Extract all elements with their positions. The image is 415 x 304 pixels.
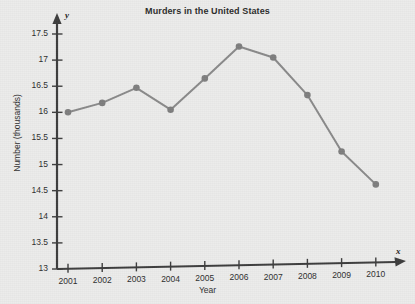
x-axis-symbol: x <box>396 246 401 256</box>
data-point-2006 <box>236 43 243 50</box>
series-markers <box>65 43 379 188</box>
x-tick-label: 2008 <box>290 271 324 281</box>
y-axis-arrowhead <box>52 13 61 24</box>
x-tick-label: 2006 <box>222 272 256 282</box>
data-point-2005 <box>202 75 209 82</box>
x-axis-line <box>57 262 396 269</box>
data-point-2009 <box>338 148 345 155</box>
series-line <box>68 47 376 185</box>
data-point-2003 <box>133 85 140 92</box>
y-tick-label: 14 <box>20 211 48 221</box>
y-tick-label: 17.5 <box>20 28 48 38</box>
y-tick-label: 14.5 <box>20 185 48 195</box>
y-axis-symbol: y <box>65 10 69 20</box>
data-point-2002 <box>99 100 106 107</box>
x-tick-label: 2010 <box>359 269 393 279</box>
x-tick-label: 2003 <box>119 274 153 284</box>
y-tick-label: 17 <box>20 54 48 64</box>
y-tick-label: 16.5 <box>20 80 48 90</box>
x-tick-label: 2007 <box>256 272 290 282</box>
axes <box>52 13 406 269</box>
x-tick-label: 2005 <box>188 273 222 283</box>
x-axis-arrowhead <box>395 257 407 266</box>
y-tick-label: 16 <box>20 106 48 116</box>
x-tick-label: 2004 <box>154 274 188 284</box>
x-axis-label: Year <box>0 285 415 295</box>
x-tick-label: 2009 <box>325 270 359 280</box>
y-tick-label: 13.5 <box>20 237 48 247</box>
chart-figure: Murders in the United States 1313.51414.… <box>0 0 415 304</box>
data-point-2007 <box>270 54 277 61</box>
plot-area <box>0 0 415 304</box>
data-point-2010 <box>373 181 380 188</box>
data-point-2001 <box>65 109 72 116</box>
data-point-2008 <box>304 92 311 99</box>
y-tick-label: 13 <box>20 263 48 273</box>
x-tick-label: 2002 <box>85 275 119 285</box>
y-tick-label: 15 <box>20 159 48 169</box>
y-tick-label: 15.5 <box>20 132 48 142</box>
data-point-2004 <box>167 106 174 113</box>
y-axis-label: Number (thousands) <box>12 78 22 188</box>
data-series <box>65 43 379 188</box>
